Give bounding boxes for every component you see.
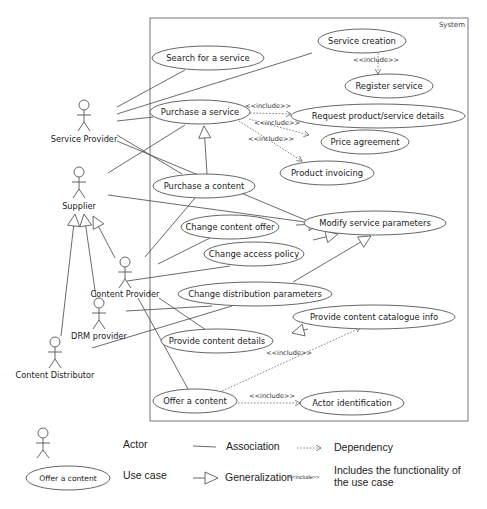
legend-dependency-label: Dependency	[334, 441, 394, 453]
association-line	[126, 306, 212, 311]
include-dependency: <<include>>	[239, 121, 302, 161]
association-line	[127, 266, 230, 281]
include-dependency: <<include>>	[245, 102, 291, 114]
use-case-label: Product invoicing	[291, 168, 363, 178]
use-case-change-offer[interactable]: Change content offer	[181, 215, 279, 239]
use-case-label: Purchase a service	[161, 107, 240, 117]
legend-association-label: Association	[226, 440, 280, 452]
use-case-search[interactable]: Search for a service	[152, 46, 264, 70]
include-dependency: <<include>>	[238, 392, 300, 403]
generalization-arrow	[61, 214, 80, 336]
actor-icon	[77, 100, 91, 131]
use-case-offer-content[interactable]: Offer a content	[153, 389, 237, 413]
use-case-label: Provide content details	[169, 336, 265, 346]
actor-icon	[92, 298, 106, 329]
use-case-request-details[interactable]: Request product/service details	[291, 104, 465, 128]
include-dependency: <<include>>	[353, 53, 399, 74]
use-case-label: Change distribution parameters	[188, 289, 322, 299]
use-case-label: Purchase a content	[164, 181, 245, 191]
use-case-access-policy[interactable]: Change access policy	[204, 242, 304, 266]
legend-generalization-label: Generalization	[225, 471, 293, 483]
legend-use-case-label: Use case	[123, 469, 167, 481]
legend-association-line	[193, 446, 216, 447]
actor-supplier[interactable]: Supplier	[62, 167, 96, 211]
actor-label: Service Provider	[51, 134, 118, 144]
generalization-arrow	[93, 216, 115, 258]
use-case-label: Change content offer	[186, 222, 276, 232]
legend-include-stereotype: <<include>>	[289, 474, 319, 480]
include-stereotype-label: <<include>>	[266, 349, 312, 357]
actor-drm-provider[interactable]: DRM provider	[71, 298, 127, 341]
system-label: System	[439, 21, 465, 29]
use-case-label: Request product/service details	[312, 111, 444, 121]
use-case-label: Actor identification	[312, 398, 391, 408]
use-case-content-details[interactable]: Provide content details	[161, 329, 273, 353]
use-case-label: Price agreement	[330, 137, 400, 147]
include-stereotype-label: <<include>>	[249, 392, 295, 400]
actor-icon	[118, 257, 132, 288]
actor-label: DRM provider	[71, 331, 127, 341]
use-case-service-creation[interactable]: Service creation	[318, 29, 406, 53]
use-case-catalogue[interactable]: Provide content catalogue info	[293, 305, 455, 329]
association-line	[158, 238, 210, 264]
include-stereotype-label: <<include>>	[254, 119, 300, 127]
use-cases: Search for a serviceService creationRegi…	[150, 29, 465, 415]
include-stereotype-label: <<include>>	[248, 135, 294, 143]
legend-include-desc-line2: the use case	[334, 476, 394, 488]
actor-label: Supplier	[62, 201, 96, 211]
generalization-arrow	[293, 236, 371, 282]
actor-label: Content Distributor	[16, 370, 95, 380]
legend-generalization-arrow	[193, 472, 218, 484]
use-case-price[interactable]: Price agreement	[321, 130, 409, 154]
generalization-arrow	[199, 126, 211, 174]
use-case-label: Offer a content	[163, 396, 227, 406]
include-stereotype-label: <<include>>	[353, 56, 399, 64]
legend-use-case-sample: Offer a content	[26, 466, 110, 490]
legend-include-desc-line1: Includes the functionality of	[334, 464, 461, 476]
use-case-modify-params[interactable]: Modify service parameters	[304, 211, 446, 235]
use-case-invoicing[interactable]: Product invoicing	[280, 161, 374, 185]
legend-actor-icon	[36, 428, 50, 458]
use-case-distribution[interactable]: Change distribution parameters	[178, 282, 332, 306]
association-line	[108, 125, 185, 173]
actor-content-distributor[interactable]: Content Distributor	[16, 337, 95, 380]
legend-use-case-sample-text: Offer a content	[39, 474, 97, 483]
legend-actor-label: Actor	[123, 438, 148, 450]
actor-service-provider[interactable]: Service Provider	[51, 100, 118, 144]
use-case-label: Search for a service	[166, 53, 249, 63]
association-line	[117, 117, 153, 121]
use-case-actor-id[interactable]: Actor identification	[300, 391, 404, 415]
use-case-label: Register service	[355, 81, 422, 91]
actor-label: Content Provider	[91, 289, 161, 299]
use-case-label: Service creation	[328, 36, 396, 46]
use-case-label: Change access policy	[209, 249, 299, 259]
generalization-arrow	[292, 324, 308, 336]
association-line	[159, 298, 206, 330]
use-case-purchase-content[interactable]: Purchase a content	[153, 174, 255, 198]
include-stereotype-label: <<include>>	[245, 102, 291, 110]
use-case-register[interactable]: Register service	[345, 74, 433, 98]
use-case-label: Modify service parameters	[319, 218, 431, 228]
legend: Actor Offer a content Use case Associati…	[26, 428, 461, 490]
actor-icon	[72, 167, 86, 198]
use-case-label: Provide content catalogue info	[310, 312, 438, 322]
use-case-diagram: System <<include>><<include>><<include>>…	[0, 0, 487, 509]
use-case-purchase-service[interactable]: Purchase a service	[150, 100, 250, 124]
actor-icon	[48, 337, 62, 368]
